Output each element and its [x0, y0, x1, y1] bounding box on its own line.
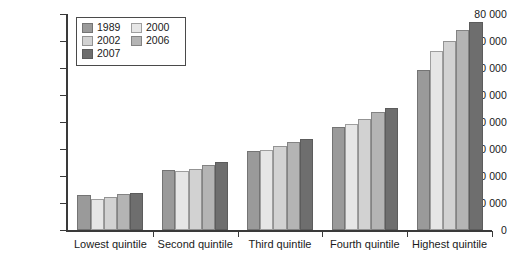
- y-axis-tick: [60, 68, 67, 69]
- bar: [162, 170, 175, 230]
- y-axis-tick: [60, 95, 67, 96]
- bar-group: [322, 14, 407, 230]
- bar-chart: 010 00020 00030 00040 00050 00060 00070 …: [0, 0, 507, 256]
- bar: [371, 112, 384, 230]
- legend-swatch-icon: [82, 49, 93, 59]
- bar: [130, 193, 143, 230]
- legend-item: 1989: [82, 22, 131, 33]
- bar: [273, 146, 286, 230]
- bar-group: [407, 14, 492, 230]
- bar: [91, 199, 104, 230]
- bar: [300, 139, 313, 230]
- bar: [287, 142, 300, 230]
- y-axis-tick: [60, 230, 67, 231]
- bar: [430, 51, 443, 230]
- legend-item: 2000: [131, 22, 180, 33]
- legend-swatch-icon: [82, 36, 93, 46]
- bar: [189, 169, 202, 230]
- x-axis-category-label: Third quintile: [238, 238, 323, 250]
- bar: [443, 41, 456, 230]
- legend-label: 2002: [97, 35, 120, 46]
- x-axis-category-label: Fourth quintile: [322, 238, 407, 250]
- bar: [332, 127, 345, 230]
- y-axis-tick: [60, 14, 67, 15]
- bar-group: [238, 14, 323, 230]
- legend-label: 1989: [97, 22, 120, 33]
- bar: [345, 124, 358, 230]
- x-axis-tick: [407, 231, 408, 237]
- legend-item: 2006: [131, 35, 180, 46]
- x-axis-category-label: Highest quintile: [407, 238, 492, 250]
- x-axis-tick: [153, 231, 154, 237]
- bar: [247, 151, 260, 230]
- bar: [417, 70, 430, 230]
- chart-legend: 19892000200220062007: [76, 17, 186, 66]
- bar: [117, 194, 130, 230]
- bar: [456, 30, 469, 230]
- y-axis-tick: [60, 149, 67, 150]
- bar: [469, 22, 482, 230]
- x-axis-tick: [238, 231, 239, 237]
- y-axis-tick: [60, 203, 67, 204]
- legend-swatch-icon: [131, 23, 142, 33]
- x-axis-category-label: Second quintile: [153, 238, 238, 250]
- y-axis-tick: [60, 41, 67, 42]
- bar: [260, 150, 273, 230]
- bar: [215, 162, 228, 230]
- y-axis-tick: [60, 122, 67, 123]
- legend-item: 2002: [82, 35, 131, 46]
- legend-items: 19892000200220062007: [82, 22, 180, 61]
- legend-label: 2000: [146, 22, 169, 33]
- legend-swatch-icon: [82, 23, 93, 33]
- x-axis-line: [66, 230, 492, 232]
- legend-label: 2006: [146, 35, 169, 46]
- x-axis-tick: [322, 231, 323, 237]
- bar: [175, 171, 188, 230]
- legend-item: 2007: [82, 48, 131, 59]
- y-axis-tick: [60, 176, 67, 177]
- bar: [202, 165, 215, 230]
- legend-label: 2007: [97, 48, 120, 59]
- bar: [358, 119, 371, 230]
- bar: [104, 197, 117, 230]
- x-axis-tick: [492, 231, 493, 237]
- legend-swatch-icon: [131, 36, 142, 46]
- bar: [385, 108, 398, 230]
- bar: [77, 195, 90, 230]
- x-axis-category-label: Lowest quintile: [68, 238, 153, 250]
